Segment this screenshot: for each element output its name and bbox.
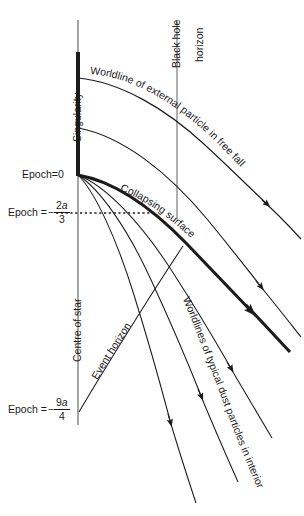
spacetime-diagram: Singularity Centre of star Black hole ho…	[0, 0, 304, 516]
dust-worldline-2-tail	[198, 389, 238, 482]
epoch-9a4-denominator: 4	[57, 411, 67, 422]
epoch-9a4-label: Epoch = − 9a 4	[8, 397, 70, 421]
epoch-9a4-prefix: Epoch =	[8, 403, 47, 415]
dust-worldline-1	[78, 175, 232, 370]
epoch-2a3-prefix: Epoch =	[8, 206, 47, 218]
black-hole-horizon-label-line1: Black hole	[170, 20, 182, 68]
collapsing-surface-tail	[246, 305, 290, 352]
epoch-2a3-numerator: 2a	[54, 200, 70, 211]
external-particle-worldline-2	[78, 128, 262, 288]
diagram-canvas	[0, 0, 304, 516]
external-particle-worldline-tail	[262, 200, 301, 239]
epoch-9a4-numerator: 9a	[54, 397, 70, 408]
dust-worldline-3-tail	[168, 414, 196, 503]
epoch-2a3-label: Epoch = − 2a 3	[8, 200, 70, 224]
event-horizon-curve	[79, 246, 183, 412]
singularity-label: Singularity	[71, 93, 83, 142]
dust-worldline-2	[78, 175, 202, 398]
black-hole-horizon-label-line2: horizon	[193, 28, 205, 62]
collapsing-surface-curve	[78, 175, 252, 312]
epoch-2a3-numerator-symbol: a	[62, 199, 68, 211]
centre-of-star-label: Centre of star	[71, 298, 83, 362]
epoch-9a4-fraction: 9a 4	[54, 397, 70, 421]
epoch-9a4-numerator-symbol: a	[62, 396, 68, 408]
epoch-zero-label: Epoch=0	[22, 168, 64, 180]
epoch-2a3-fraction: 2a 3	[54, 200, 70, 224]
dust-worldline-1-tail	[227, 362, 272, 438]
epoch-2a3-denominator: 3	[57, 214, 67, 225]
external-particle-worldline-2-tail	[256, 281, 301, 337]
external-particle-worldline	[78, 78, 268, 205]
